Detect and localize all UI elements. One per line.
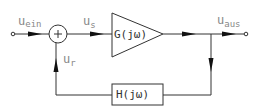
error-arrow-icon <box>90 32 104 37</box>
input-arrow-icon <box>28 32 42 37</box>
forward-block-label: G(jω) <box>114 28 147 41</box>
error-signal-label: us <box>83 14 96 30</box>
block-diagram: G(jω) H(jω) uein us uaus ur <box>0 0 260 110</box>
summing-junction <box>49 25 67 43</box>
output-signal-label: uaus <box>217 13 241 29</box>
input-terminal <box>11 32 15 36</box>
feedback-block-label: H(jω) <box>116 88 149 101</box>
input-signal-label: uein <box>18 14 42 29</box>
feedback-signal-label: ur <box>63 52 76 68</box>
up-arrow-icon <box>54 58 59 72</box>
output-arrow-icon <box>222 32 236 37</box>
down-arrow-icon <box>209 58 214 72</box>
forward-arrow-icon <box>182 32 196 37</box>
output-terminal <box>244 32 248 36</box>
